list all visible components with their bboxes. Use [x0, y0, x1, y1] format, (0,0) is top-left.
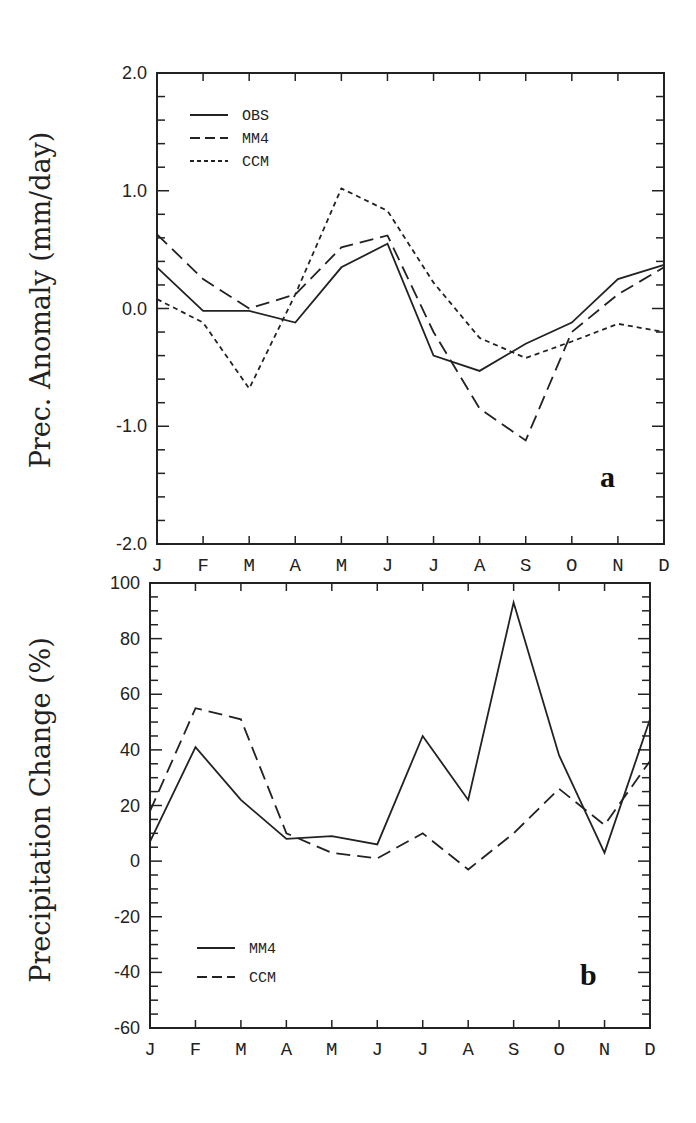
x-tick-label: M: [336, 555, 347, 577]
x-tick-label: M: [243, 555, 254, 577]
x-tick-label: M: [326, 1039, 337, 1061]
legend-label-mm4: MM4: [242, 131, 269, 148]
panel-b-legend: MM4CCM: [197, 941, 276, 987]
y-tick-label: 0: [130, 851, 140, 871]
y-tick-label: -1.0: [116, 416, 147, 436]
panel-b-chart: 100806040200-20-40-60 JFMAMJJASOND MM4CC…: [25, 573, 656, 1061]
x-tick-label: F: [197, 555, 208, 577]
legend-label-obs: OBS: [242, 108, 269, 125]
panel-b-frame: [150, 583, 650, 1028]
y-tick-label: 40: [120, 740, 140, 760]
y-tick-label: 0.0: [122, 299, 147, 319]
panel-a-x-ticks: JFMAMJJASOND: [151, 73, 669, 577]
figure: 2.01.00.0-1.0-2.0 JFMAMJJASOND OBSMM4CCM…: [0, 0, 696, 1123]
x-tick-label: F: [190, 1039, 201, 1061]
x-tick-label: J: [144, 1039, 155, 1061]
y-tick-label: 2.0: [122, 63, 147, 83]
y-tick-label: -40: [114, 962, 140, 982]
x-tick-label: A: [462, 1039, 474, 1061]
y-tick-label: -2.0: [116, 534, 147, 554]
series-obs-line: [157, 244, 664, 371]
y-tick-label: 1.0: [122, 181, 147, 201]
x-tick-label: O: [566, 555, 577, 577]
panel-a-y-ticks: 2.01.00.0-1.0-2.0: [116, 63, 664, 554]
panel-b-series: [150, 603, 650, 870]
x-tick-label: S: [520, 555, 531, 577]
y-tick-label: 80: [120, 629, 140, 649]
y-tick-label: 20: [120, 796, 140, 816]
x-tick-label: A: [281, 1039, 293, 1061]
y-tick-label: -20: [114, 907, 140, 927]
x-tick-label: A: [474, 555, 486, 577]
panel-a-chart: 2.01.00.0-1.0-2.0 JFMAMJJASOND OBSMM4CCM…: [25, 63, 670, 577]
x-tick-label: J: [428, 555, 439, 577]
panel-b-y-ticks: 100806040200-20-40-60: [110, 573, 650, 1038]
x-tick-label: M: [235, 1039, 246, 1061]
x-tick-label: D: [644, 1039, 655, 1061]
y-tick-label: -60: [114, 1018, 140, 1038]
panel-b-y-axis-title: Precipitation Change (%): [25, 637, 56, 983]
y-tick-label: 60: [120, 684, 140, 704]
x-tick-label: O: [553, 1039, 564, 1061]
legend-label-ccm: CCM: [242, 154, 269, 171]
panel-a-series: [157, 188, 664, 440]
x-tick-label: S: [508, 1039, 519, 1061]
y-tick-label: 100: [110, 573, 140, 593]
x-tick-label: D: [658, 555, 669, 577]
panel-b-label: b: [580, 958, 597, 991]
x-tick-label: J: [151, 555, 162, 577]
x-tick-label: A: [290, 555, 302, 577]
x-tick-label: J: [372, 1039, 383, 1061]
panel-a-legend: OBSMM4CCM: [190, 108, 269, 171]
legend-label-mm4: MM4: [249, 941, 276, 958]
panel-b-x-ticks: JFMAMJJASOND: [144, 583, 655, 1061]
legend-label-ccm: CCM: [249, 970, 276, 987]
panel-a-y-axis-title: Prec. Anomaly (mm/day): [25, 132, 56, 469]
series-ccm-line: [157, 188, 664, 388]
x-tick-label: N: [612, 555, 623, 577]
series-mm4-line: [150, 603, 650, 853]
series-mm4-line: [157, 234, 664, 440]
x-tick-label: J: [417, 1039, 428, 1061]
x-tick-label: N: [599, 1039, 610, 1061]
x-tick-label: J: [382, 555, 393, 577]
panel-a-label: a: [600, 460, 615, 493]
